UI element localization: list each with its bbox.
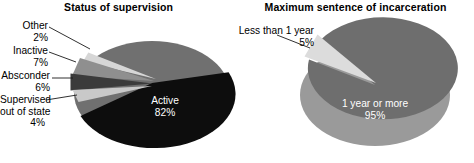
- callout-inactive-label: Inactive: [0, 45, 48, 57]
- inner-label-active-value: 82%: [130, 107, 200, 119]
- callout-other-value: 2%: [0, 32, 48, 44]
- leader-line-inactive: [49, 52, 76, 62]
- callout-less-than-one-year: Less than 1 year 5%: [237, 25, 314, 48]
- inner-label-one-year-or-more-text: 1 year or more: [327, 98, 423, 110]
- callout-absconder: Absconder 6%: [0, 70, 50, 93]
- pie-charts-figure: Status of supervision Other 2%: [0, 0, 474, 163]
- callout-inactive: Inactive 7%: [0, 45, 48, 68]
- chart-panel-status-of-supervision: Status of supervision Other 2%: [0, 0, 237, 163]
- inner-label-active: Active 82%: [130, 95, 200, 119]
- inner-label-one-year-or-more-value: 95%: [327, 110, 423, 122]
- callout-supervised-line2: out of state: [0, 106, 45, 118]
- inner-label-active-text: Active: [130, 95, 200, 107]
- callout-other-label: Other: [0, 20, 48, 32]
- callout-supervised-line1: Supervised: [0, 94, 45, 106]
- chart-panel-maximum-sentence-of-incarceration: Maximum sentence of incarceration Less t…: [237, 0, 474, 163]
- callout-other: Other 2%: [0, 20, 48, 43]
- callout-supervised-value: 4%: [0, 117, 45, 129]
- callout-inactive-value: 7%: [0, 57, 48, 69]
- callout-less-than-one-year-value: 5%: [237, 37, 314, 49]
- callout-absconder-label: Absconder: [0, 70, 50, 82]
- callout-less-than-one-year-label: Less than 1 year: [237, 25, 314, 37]
- inner-label-one-year-or-more: 1 year or more 95%: [327, 98, 423, 122]
- leader-line-other: [49, 27, 90, 49]
- callout-absconder-value: 6%: [0, 82, 50, 94]
- callout-supervised-out-of-state: Supervised out of state 4%: [0, 94, 45, 129]
